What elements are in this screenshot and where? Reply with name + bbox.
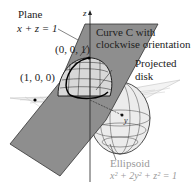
ellipsoid-upper [58,58,112,99]
ellipsoid-label: Ellipsoid [110,158,150,169]
ellipsoid-equation: x² + 2y² + z² = 1 [110,170,177,181]
point-0-0-1 [87,56,90,59]
plane-title: Plane [18,9,42,20]
point-1-0-0 [33,98,36,101]
z-axis-label: z [83,8,87,19]
point-0-0-1-label: (0, 0, 1) [55,44,90,55]
point-1-0-0-label: (1, 0, 0) [20,72,55,83]
curve-label-line2: clockwise orientation [96,39,190,50]
y-axis-label: y [124,115,128,126]
plane-equation: x + z = 1 [17,23,58,34]
curve-label-line1: Curve C with [96,27,155,38]
projected-disk-label-line1: Projected [135,58,177,69]
projected-disk-label-line2: disk [135,71,153,82]
